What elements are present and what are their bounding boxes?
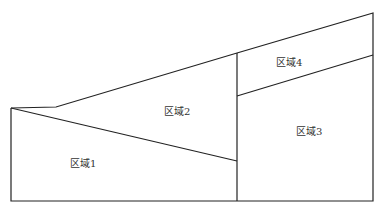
region-diagram: 区域1 区域2 区域3 区域4	[0, 0, 382, 214]
divider-region3-region4	[237, 55, 373, 96]
region-1-label: 区域1	[70, 157, 96, 169]
region-2-label: 区域2	[164, 105, 190, 117]
region-3-label: 区域3	[296, 125, 322, 137]
outer-boundary	[11, 13, 373, 201]
region-4-label: 区域4	[276, 56, 302, 68]
diagonal-divider-region1-region2	[11, 108, 237, 161]
